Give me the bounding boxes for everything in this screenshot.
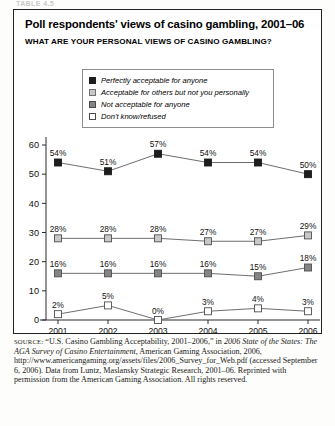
y-tick-label: 60 xyxy=(29,140,39,150)
y-tick-label: 20 xyxy=(29,257,39,267)
y-tick-label: 10 xyxy=(29,286,39,296)
series-line xyxy=(58,305,308,320)
data-point-marker xyxy=(105,302,112,309)
data-point-label: 15% xyxy=(250,262,267,272)
data-point-marker xyxy=(155,150,162,157)
data-point-marker xyxy=(105,235,112,242)
data-point-label: 4% xyxy=(252,294,265,304)
series-line xyxy=(58,268,308,277)
source-label: SOURCE: xyxy=(14,338,43,345)
data-point-marker xyxy=(155,317,162,324)
data-point-label: 16% xyxy=(150,259,167,269)
y-tick-label: 40 xyxy=(29,199,39,209)
y-tick-label: 30 xyxy=(29,228,39,238)
data-point-marker xyxy=(155,235,162,242)
source-note: SOURCE: “U.S. Casino Gambling Acceptabil… xyxy=(14,337,322,385)
x-tick-label: 2006 xyxy=(298,326,317,335)
data-point-marker xyxy=(205,238,212,245)
data-point-marker xyxy=(205,159,212,166)
data-point-marker xyxy=(255,273,262,280)
data-point-marker xyxy=(105,270,112,277)
data-point-label: 51% xyxy=(100,157,117,167)
figure-page: TABLE 4.5 Poll respondents' views of cas… xyxy=(0,0,335,426)
data-point-label: 54% xyxy=(50,148,67,158)
x-tick-label: 2003 xyxy=(148,326,167,335)
data-point-marker xyxy=(305,171,312,178)
data-point-label: 16% xyxy=(100,259,117,269)
data-point-label: 3% xyxy=(302,297,315,307)
series-line xyxy=(58,154,308,174)
data-point-marker xyxy=(305,232,312,239)
x-tick-label: 2001 xyxy=(48,326,67,335)
data-point-marker xyxy=(305,308,312,315)
data-point-marker xyxy=(55,235,62,242)
data-point-label: 0% xyxy=(152,306,165,316)
y-tick-label: 0 xyxy=(34,315,39,325)
data-point-label: 5% xyxy=(102,291,115,301)
cutoff-header-text: TABLE 4.5 xyxy=(16,0,106,7)
data-point-marker xyxy=(155,270,162,277)
data-point-label: 29% xyxy=(300,221,317,231)
data-point-label: 28% xyxy=(50,224,67,234)
line-chart: 010203040506020012002200320042005200654%… xyxy=(14,10,323,335)
data-point-marker xyxy=(55,159,62,166)
data-point-label: 57% xyxy=(150,139,167,149)
data-point-marker xyxy=(255,159,262,166)
data-point-label: 54% xyxy=(200,148,217,158)
data-point-marker xyxy=(205,270,212,277)
x-tick-label: 2002 xyxy=(98,326,117,335)
data-point-marker xyxy=(255,238,262,245)
data-point-marker xyxy=(305,264,312,271)
x-tick-label: 2004 xyxy=(198,326,217,335)
source-line1: “U.S. Casino Gambling Acceptability, 200… xyxy=(43,337,224,346)
series-line xyxy=(58,235,308,241)
data-point-label: 27% xyxy=(200,227,217,237)
data-point-label: 16% xyxy=(50,259,67,269)
y-tick-label: 50 xyxy=(29,169,39,179)
data-point-label: 50% xyxy=(300,160,317,170)
data-point-label: 54% xyxy=(250,148,267,158)
data-point-label: 28% xyxy=(150,224,167,234)
figure-frame: Poll respondents' views of casino gambli… xyxy=(13,9,322,334)
data-point-marker xyxy=(55,311,62,318)
data-point-marker xyxy=(105,168,112,175)
data-point-marker xyxy=(255,305,262,312)
data-point-label: 2% xyxy=(52,300,65,310)
data-point-label: 16% xyxy=(200,259,217,269)
data-point-marker xyxy=(205,308,212,315)
chart-canvas: 010203040506020012002200320042005200654%… xyxy=(14,10,323,335)
data-point-label: 18% xyxy=(300,253,317,263)
data-point-label: 27% xyxy=(250,227,267,237)
data-point-label: 3% xyxy=(202,297,215,307)
data-point-label: 28% xyxy=(100,224,117,234)
x-tick-label: 2005 xyxy=(248,326,267,335)
data-point-marker xyxy=(55,270,62,277)
